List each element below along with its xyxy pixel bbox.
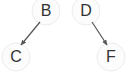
- diagram-canvas: B D C F: [0, 0, 129, 72]
- edge-d-to-f[interactable]: [92, 22, 107, 45]
- edges: [21, 22, 107, 45]
- node-label-d: D: [76, 3, 96, 19]
- edge-b-to-c[interactable]: [21, 22, 40, 45]
- node-label-b: B: [36, 3, 56, 19]
- node-label-c: C: [6, 49, 26, 65]
- node-label-f: F: [101, 49, 121, 65]
